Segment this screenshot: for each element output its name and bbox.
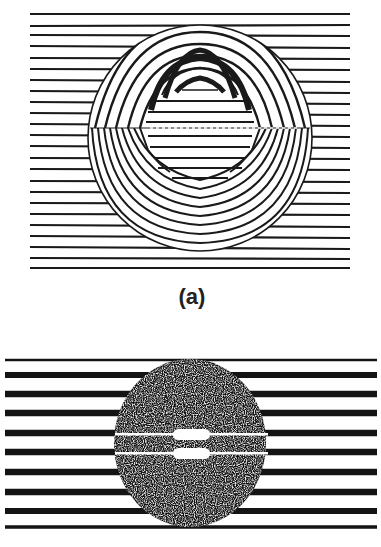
panel-b: [5, 359, 377, 527]
panel-b-lower-opening: [173, 448, 210, 459]
panel-b-upper-opening: [173, 429, 210, 440]
panel-a: [30, 14, 350, 268]
figure: [0, 0, 381, 547]
panel-a-caption: (a): [172, 284, 212, 310]
